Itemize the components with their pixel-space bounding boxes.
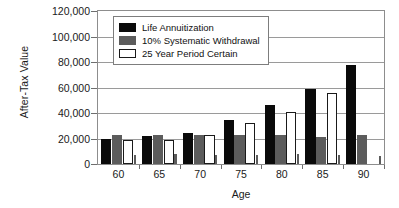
bar	[305, 89, 315, 164]
bar	[357, 135, 367, 164]
bar	[275, 135, 285, 164]
x-axis-tick-mark	[384, 165, 385, 169]
legend-swatch-icon	[119, 49, 136, 58]
bar	[101, 139, 111, 164]
bar	[164, 140, 174, 164]
bar	[286, 112, 296, 164]
x-axis-tick-label: 80	[262, 168, 302, 180]
bar	[153, 135, 163, 164]
legend-item-label: Life Annuitization	[142, 22, 214, 33]
bar	[297, 154, 299, 164]
bar-chart: After-Tax Value 120,000100,00080,00060,0…	[0, 0, 399, 208]
chart-legend: Life Annuitization10% Systematic Withdra…	[113, 16, 269, 65]
bar	[123, 140, 133, 164]
x-axis-tick-label: 70	[180, 168, 220, 180]
legend-item: Life Annuitization	[119, 21, 260, 34]
legend-item: 25 Year Period Certain	[119, 47, 260, 60]
y-axis-tick-label: 120,000	[34, 6, 90, 16]
bar	[112, 135, 122, 164]
bar	[316, 137, 326, 164]
bar	[245, 123, 255, 164]
bar	[346, 65, 356, 164]
legend-swatch-icon	[119, 23, 136, 32]
legend-item-label: 10% Systematic Withdrawal	[142, 35, 260, 46]
y-axis-tick-label: 80,000	[34, 57, 90, 67]
y-axis-tick-label: 60,000	[34, 83, 90, 93]
x-axis-tick-label: 75	[221, 168, 261, 180]
legend-swatch-icon	[119, 36, 136, 45]
y-axis-tick-label: 100,000	[34, 32, 90, 42]
bar	[224, 120, 234, 164]
y-axis-tick-label: 40,000	[34, 108, 90, 118]
x-axis-tick-label: 65	[139, 168, 179, 180]
x-axis-tick-label: 90	[344, 168, 384, 180]
bar	[327, 93, 337, 164]
bar	[134, 155, 136, 164]
bar	[215, 155, 217, 164]
bar	[234, 135, 244, 164]
bar	[142, 136, 152, 164]
bar-group	[305, 11, 340, 164]
bar	[265, 105, 275, 164]
x-axis-tick-label: 85	[303, 168, 343, 180]
bar	[183, 133, 193, 164]
bar	[379, 156, 381, 164]
legend-item: 10% Systematic Withdrawal	[119, 34, 260, 47]
y-axis-tick-label: 0	[34, 159, 90, 169]
x-axis-tick-label: 60	[98, 168, 138, 180]
y-axis-title: After-Tax Value	[18, 12, 30, 152]
bar	[256, 155, 258, 164]
bar	[174, 154, 176, 164]
legend-item-label: 25 Year Period Certain	[142, 48, 238, 59]
x-axis-title: Age	[97, 188, 385, 200]
bar-group	[265, 11, 300, 164]
bar	[194, 135, 204, 164]
bar-group	[346, 11, 381, 164]
bar	[204, 135, 214, 164]
y-axis-tick-label: 20,000	[34, 134, 90, 144]
bar	[338, 155, 340, 164]
